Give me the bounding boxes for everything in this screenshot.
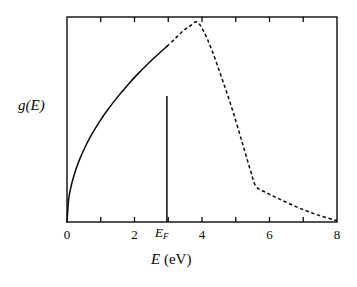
fermi-subscript: F (163, 231, 169, 241)
x-axis-title: E (eV) (151, 252, 191, 267)
x-axis-title-symbol: E (151, 251, 160, 267)
x-tick-label: 8 (317, 228, 357, 241)
density-of-states-figure: g(E) E (eV) 02468 EF (0, 0, 357, 287)
x-tick-label: 6 (250, 228, 290, 241)
x-tick-label: 2 (115, 228, 155, 241)
x-tick-label: 4 (182, 228, 222, 241)
fermi-level-label: EF (155, 226, 168, 239)
fermi-symbol: E (155, 225, 163, 240)
x-axis-title-units: (eV) (164, 251, 191, 267)
plot-canvas (0, 0, 357, 287)
y-axis-label: g(E) (18, 98, 45, 113)
figure-background (0, 0, 357, 287)
x-tick-label: 0 (47, 228, 87, 241)
